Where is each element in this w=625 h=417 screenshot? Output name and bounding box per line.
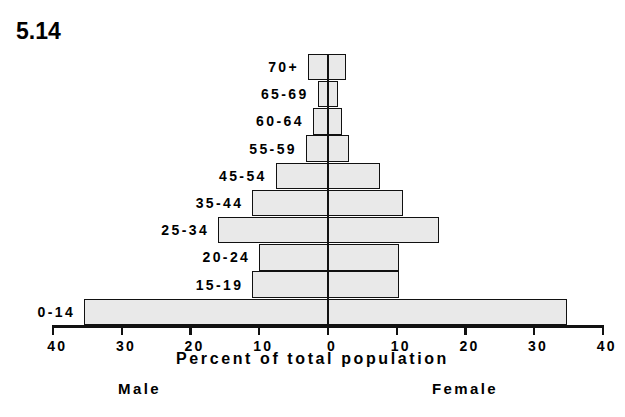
bar-female-35-44 (328, 190, 403, 216)
age-group-label-45-54: 45-54 (219, 168, 267, 184)
x-axis-tick-20-6 (464, 325, 466, 335)
x-axis-tick-10-5 (396, 325, 398, 335)
age-group-label-25-34: 25-34 (161, 222, 209, 238)
age-group-label-55-59: 55-59 (249, 141, 297, 157)
x-axis-tick-10-3 (258, 325, 260, 335)
age-group-label-35-44: 35-44 (196, 195, 244, 211)
age-group-label-20-24: 20-24 (203, 249, 251, 265)
bar-female-0-14 (328, 299, 567, 325)
bar-female-20-24 (328, 244, 399, 270)
x-axis-tick-20-2 (189, 325, 191, 335)
age-group-label-70+: 70+ (268, 59, 299, 75)
x-axis-tick-40-0 (52, 325, 54, 335)
bar-male-25-34 (218, 217, 328, 243)
x-axis-tick-40-8 (602, 325, 604, 335)
bar-female-60-64 (328, 108, 342, 134)
bar-male-60-64 (313, 108, 328, 134)
bar-female-65-69 (328, 81, 338, 107)
x-axis-tick-0-4 (327, 325, 329, 335)
centre-axis-line (327, 54, 329, 325)
age-group-label-0-14: 0-14 (38, 304, 76, 320)
bar-female-45-54 (328, 163, 380, 189)
age-group-label-60-64: 60-64 (256, 113, 304, 129)
male-side-label: Male (118, 380, 161, 397)
bar-female-25-34 (328, 217, 439, 243)
female-side-label: Female (432, 380, 498, 397)
age-group-label-15-19: 15-19 (196, 277, 244, 293)
bar-male-45-54 (276, 163, 328, 189)
bar-female-15-19 (328, 271, 399, 297)
figure-root: 5.14 70+65-6960-6455-5945-5435-4425-3420… (0, 0, 625, 417)
bar-male-0-14 (84, 299, 328, 325)
bar-female-70+ (328, 54, 346, 80)
bar-male-70+ (308, 54, 328, 80)
bar-male-35-44 (252, 190, 328, 216)
age-group-label-65-69: 65-69 (261, 86, 309, 102)
bar-male-15-19 (252, 271, 328, 297)
axis-title: Percent of total population (0, 350, 625, 368)
x-axis-tick-30-7 (533, 325, 535, 335)
bar-female-55-59 (328, 135, 349, 161)
bar-male-20-24 (259, 244, 328, 270)
x-axis-tick-30-1 (121, 325, 123, 335)
bar-male-55-59 (306, 135, 328, 161)
